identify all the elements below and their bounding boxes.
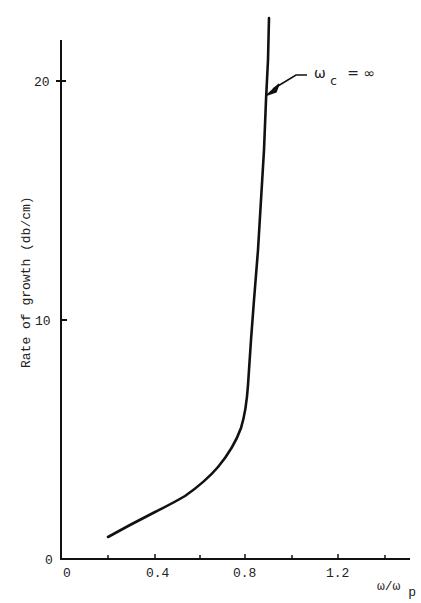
- x-tick-label-1.2: 1.2: [326, 566, 349, 581]
- x-axis-title-sub: p: [408, 585, 416, 600]
- annotation-arrow: [267, 75, 307, 95]
- growth-rate-chart: 20 10 0 0 0.4 0.8 1.2 Rate of growth (db…: [0, 0, 421, 603]
- growth-curve: [108, 18, 269, 537]
- x-tick-label-0.4: 0.4: [146, 566, 170, 581]
- x-tick-label-0: 0: [63, 566, 71, 581]
- y-tick-label-0: 0: [45, 553, 53, 568]
- y-axis-title: Rate of growth (db/cm): [19, 196, 34, 368]
- y-tick-label-20: 20: [34, 75, 50, 90]
- annotation-omega: ω: [314, 65, 326, 81]
- annotation-equals-infinity: = ∞: [347, 65, 375, 81]
- x-tick-label-0.8: 0.8: [233, 566, 256, 581]
- x-axis-title: ω/ω p: [377, 579, 416, 600]
- annotation-omega-c-infinity: ω c = ∞: [314, 65, 375, 88]
- x-axis-title-main: ω/ω: [377, 579, 401, 594]
- y-tick-label-10: 10: [35, 314, 51, 329]
- annotation-subscript: c: [330, 74, 337, 88]
